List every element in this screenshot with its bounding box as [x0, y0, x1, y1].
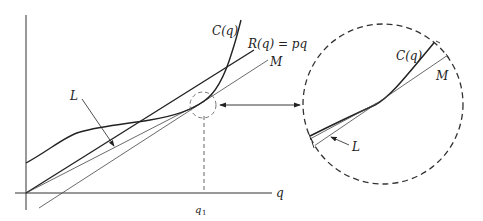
tangency-highlight-circle [190, 92, 216, 118]
inset-line-l [310, 103, 377, 139]
cost-curve-label: C(q) [212, 24, 239, 38]
inset-end-tick [436, 41, 440, 43]
svg-text:q: q [195, 204, 201, 215]
inset-m-label: M [435, 69, 449, 83]
x-axis-label: q [276, 186, 284, 200]
inset-l-label: L [351, 140, 360, 154]
inset-l-pointer [331, 137, 349, 145]
q1-tick-label: q 1 [195, 204, 206, 217]
diagram-canvas: C(q) R(q) = pq M L q q 1 C(q) M L [0, 0, 483, 221]
line-m-label: M [269, 55, 283, 69]
line-l-label: L [69, 89, 78, 103]
axes [15, 15, 272, 210]
line-l-pointer [82, 99, 114, 146]
inset-dashed-circle [303, 24, 463, 184]
inset-line-m [314, 55, 448, 146]
inset-cost-label: C(q) [396, 49, 423, 63]
revenue-line-label: R(q) = pq [247, 37, 307, 51]
cost-curve [26, 20, 241, 163]
magnified-inset: C(q) M L [303, 24, 463, 184]
svg-text:1: 1 [202, 209, 206, 217]
